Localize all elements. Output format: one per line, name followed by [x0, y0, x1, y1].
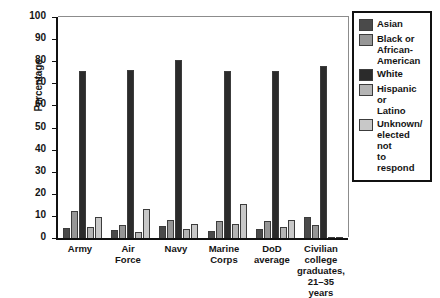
bar [191, 224, 198, 238]
bar [272, 71, 279, 238]
y-tick-label: 70 [8, 76, 46, 87]
bar-group [106, 17, 154, 238]
bar [304, 217, 311, 238]
legend-label: Asian [377, 18, 403, 29]
y-tick-label: 50 [8, 121, 46, 132]
legend-item: Hispanic or Latino [359, 83, 426, 116]
legend-label: White [377, 68, 403, 79]
bar [167, 220, 174, 238]
bar [320, 66, 327, 238]
plot-right-border [348, 16, 349, 237]
bar [159, 226, 166, 238]
bar [63, 228, 70, 238]
chart-legend: AsianBlack or African- AmericanWhiteHisp… [352, 11, 432, 182]
bar [240, 204, 247, 238]
legend-label: Black or African- American [377, 33, 420, 66]
bar [183, 229, 190, 238]
bar-group [155, 17, 203, 238]
bar [135, 232, 142, 238]
bar [111, 230, 118, 238]
y-tick-label: 80 [8, 54, 46, 65]
bar [312, 225, 319, 238]
bar [79, 71, 86, 238]
legend-swatch [359, 69, 373, 81]
bar [143, 209, 150, 238]
y-tick-label: 90 [8, 32, 46, 43]
y-tick-mark [52, 238, 58, 239]
bar [288, 220, 295, 238]
bar [87, 227, 94, 238]
bar [127, 70, 134, 238]
y-tick-label: 100 [8, 10, 46, 21]
legend-swatch [359, 119, 373, 131]
x-axis-label: Navy [152, 243, 200, 298]
legend-swatch [359, 19, 373, 31]
bar-groups [58, 17, 348, 238]
legend-swatch [359, 34, 373, 46]
y-tick-label: 20 [8, 187, 46, 198]
y-tick-label: 30 [8, 165, 46, 176]
bar [336, 237, 343, 238]
bar [328, 237, 335, 238]
legend-item: Unknown/ elected not to respond [359, 118, 426, 173]
legend-item: Black or African- American [359, 33, 426, 66]
bar-group [251, 17, 299, 238]
x-axis-label: Army [56, 243, 104, 298]
legend-swatch [359, 84, 373, 96]
bar [280, 227, 287, 238]
bar-group [300, 17, 348, 238]
y-tick-label: 60 [8, 98, 46, 109]
x-axis-label: Civiliancollegegraduates,21–35 years [296, 243, 346, 298]
y-tick-label: 40 [8, 143, 46, 154]
plot-area: 0102030405060708090100 [56, 17, 348, 240]
legend-label: Unknown/ elected not to respond [377, 118, 426, 173]
bar [224, 71, 231, 238]
legend-label: Hispanic or Latino [377, 83, 426, 116]
bar-group [203, 17, 251, 238]
bar [208, 231, 215, 238]
bar [232, 224, 239, 238]
legend-item: White [359, 68, 426, 81]
bar [264, 221, 271, 238]
y-tick-label: 10 [8, 209, 46, 220]
bar [216, 221, 223, 238]
bar [95, 217, 102, 238]
bar [119, 225, 126, 238]
x-axis-label: AirForce [104, 243, 152, 298]
legend-item: Asian [359, 18, 426, 31]
x-axis-labels: ArmyAirForceNavyMarineCorpsDoDaverageCiv… [56, 243, 346, 298]
bar [71, 211, 78, 238]
x-axis-label: MarineCorps [200, 243, 248, 298]
bar [175, 60, 182, 238]
bar [256, 229, 263, 238]
y-tick-label: 0 [8, 231, 46, 242]
bar-group [58, 17, 106, 238]
x-axis-label: DoDaverage [248, 243, 296, 298]
